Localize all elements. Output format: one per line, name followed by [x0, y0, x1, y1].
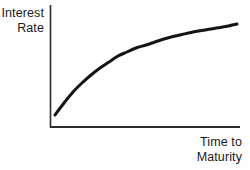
yield-curve-line [55, 24, 237, 115]
yield-curve-figure: Interest Rate Time to Maturity [0, 0, 250, 170]
x-axis-label: Time to Maturity [150, 135, 242, 164]
axis-lines [50, 5, 240, 128]
